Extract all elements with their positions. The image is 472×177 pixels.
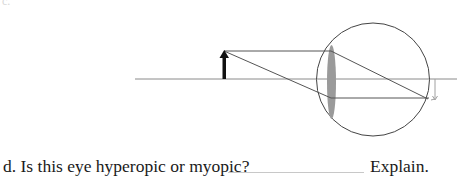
object-arrow xyxy=(220,50,230,79)
converging-lens xyxy=(327,45,336,119)
answer-blank-line[interactable] xyxy=(228,172,364,173)
image-arrow xyxy=(431,79,438,100)
light-rays xyxy=(224,51,429,99)
explain-label: Explain. xyxy=(370,156,429,176)
question-d: d. Is this eye hyperopic or myopic? xyxy=(3,156,249,176)
eye-ray-diagram xyxy=(0,0,472,177)
